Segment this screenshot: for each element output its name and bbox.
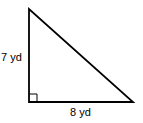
- vertical-side-label: 7 yd: [1, 51, 22, 63]
- right-triangle: [29, 9, 133, 102]
- horizontal-side-label: 8 yd: [70, 106, 91, 118]
- right-angle-marker: [29, 94, 37, 102]
- triangle-diagram: 7 yd 8 yd: [0, 0, 143, 123]
